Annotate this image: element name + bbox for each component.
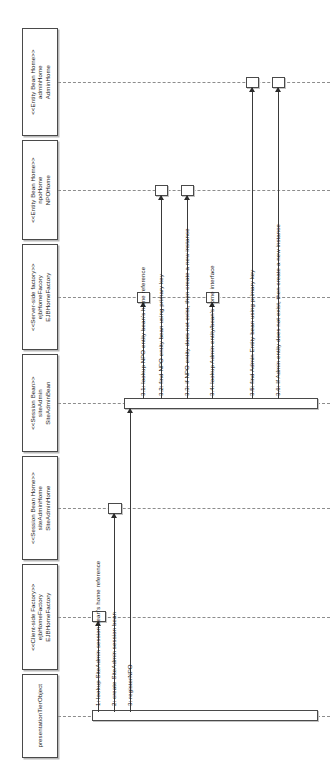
lifeline-instance-name: presentationTierObject (36, 684, 43, 748)
message-arrowhead-3-2 (158, 195, 164, 200)
lifeline-head-siteAdminBean: <<Session Bean>> siteAdmin SiteAdminBean (22, 354, 58, 452)
lifeline-class-name: AdminHome (44, 49, 51, 114)
lifeline-head-adminHome: <<Entity Bean Home>> adminHome AdminHome (22, 28, 58, 136)
message-arrowhead-3 (127, 408, 133, 413)
message-arrowhead-3-3 (184, 195, 190, 200)
lifeline-class-name: SiteAdminHome (44, 472, 51, 544)
lifeline-head-serverEjbHomeFactory: <<Server-side factory>> ejbHomeFacory EJ… (22, 244, 58, 350)
lifeline-class-name: NPOHome (44, 157, 51, 222)
message-label-3-6: 3.6: If Admin entity does not exist, the… (274, 224, 281, 396)
lifeline-class-name: EJBHomeFactory (44, 583, 51, 650)
lifeline-class-name: SiteAdminBean (44, 376, 51, 429)
message-label-2: 2: create SiteAdmin session bean (110, 612, 117, 706)
sequence-diagram-canvas: <<Entity Bean Home>> adminHome AdminHome… (0, 0, 336, 769)
message-label-3-4: 3.4: lookup Admin entity/bean's home int… (208, 265, 215, 396)
lifeline-head-npoHome: <<Entity Bean Home>> npoHome NPOHome (22, 140, 58, 240)
message-arrowhead-2 (111, 513, 117, 518)
lifeline-stereotype: <<Session Bean Home>> (29, 472, 36, 544)
lifeline-head-presentationTierObject: presentationTierObject (22, 674, 58, 758)
message-label-3-2: 3.2: find NPO entity bean using primary … (157, 274, 164, 396)
lifeline-line-serverEjbHomeFactory (58, 297, 330, 298)
lifeline-line-npoHome (58, 190, 330, 191)
lifeline-line-siteAdminHome (58, 508, 330, 509)
message-label-3-1: 3.1: lookup NPO entity bean's home refer… (139, 267, 146, 396)
message-label-3: 3: registerNPO (126, 664, 133, 706)
lifeline-head-siteAdminHome: <<Session Bean Home>> siteAdminHome Site… (22, 456, 58, 560)
activation-bar-presentationTierObject (92, 710, 318, 721)
message-arrowhead-3-6 (275, 87, 281, 92)
activation-bar-siteAdminBean (124, 398, 318, 409)
lifeline-class-name: EJBHomeFactory (44, 263, 51, 331)
message-label-1: 1: lookup SiteAdmin session bean's home … (94, 561, 101, 706)
lifeline-head-clientEjbHomeFactory: <<Client-side Factory>> ejbHomeFactory E… (22, 564, 58, 670)
lifeline-instance-name: siteAdminHome (36, 472, 43, 544)
message-label-3-3: 3.3: if NPO entity does not exist, then … (183, 228, 190, 396)
lifeline-line-adminHome (58, 82, 330, 83)
message-label-3-5: 3.5: find Admin Entity bean using primar… (248, 270, 255, 396)
message-arrowhead-3-5 (249, 87, 255, 92)
